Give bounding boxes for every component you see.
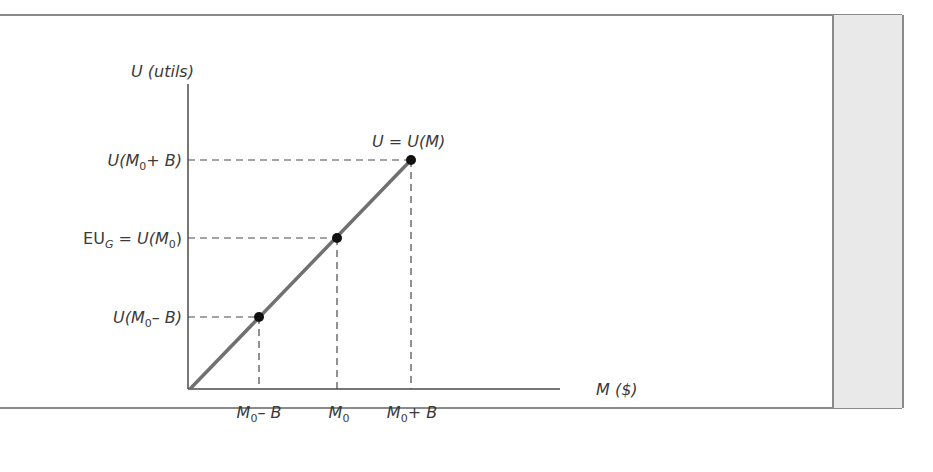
x-tick-right: M0+ B bbox=[387, 403, 437, 425]
x-tick-left: M0– B bbox=[237, 403, 282, 425]
y-axis-title: U (utils) bbox=[131, 62, 194, 81]
point-m0 bbox=[332, 233, 342, 243]
utility-chart: U (utils) M ($) U = U(M) U(M0+ B) EUG = … bbox=[0, 0, 933, 472]
point-m0-minus-b bbox=[254, 312, 264, 322]
point-m0-plus-b bbox=[406, 155, 416, 165]
y-tick-low: U(M0– B) bbox=[113, 308, 182, 330]
curve-label: U = U(M) bbox=[372, 132, 445, 151]
y-tick-mid: EUG = U(M0) bbox=[83, 229, 182, 251]
x-tick-mid: M0 bbox=[329, 403, 350, 425]
y-tick-top: U(M0+ B) bbox=[108, 151, 182, 173]
utility-curve bbox=[190, 160, 411, 389]
x-axis-title: M ($) bbox=[596, 380, 638, 399]
